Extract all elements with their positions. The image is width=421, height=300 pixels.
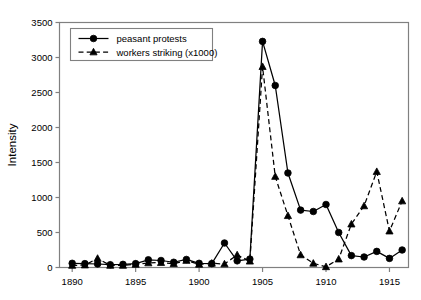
data-point-marker: [272, 82, 279, 89]
series-line: [72, 67, 402, 267]
data-point-marker: [310, 208, 317, 215]
data-point-marker: [335, 255, 342, 262]
data-point-marker: [234, 251, 241, 258]
y-axis-tick-label: 500: [37, 227, 53, 238]
series-2: [69, 63, 406, 270]
data-point-marker: [94, 261, 101, 268]
y-axis-tick-label: 2000: [31, 122, 52, 133]
x-axis-tick-label: 1890: [62, 276, 83, 287]
data-point-marker: [399, 247, 406, 254]
data-point-marker: [323, 201, 330, 208]
chart-container: 0500100015002000250030003500189018951900…: [0, 0, 421, 300]
y-axis-tick-label: 1500: [31, 157, 52, 168]
data-point-marker: [94, 255, 101, 262]
data-point-marker: [386, 227, 393, 234]
series-line: [72, 41, 402, 264]
legend-item-label: workers striking (x1000): [116, 47, 218, 58]
data-point-marker: [284, 212, 291, 219]
data-point-marker: [259, 38, 266, 45]
data-point-marker: [297, 207, 304, 214]
data-point-marker: [335, 229, 342, 236]
data-point-marker: [360, 202, 367, 209]
data-point-marker: [361, 254, 368, 261]
data-point-marker: [221, 260, 228, 267]
data-point-marker: [272, 173, 279, 180]
data-point-marker: [310, 260, 317, 267]
data-point-marker: [386, 255, 393, 262]
y-axis-tick-label: 3500: [31, 17, 52, 28]
line-chart: 0500100015002000250030003500189018951900…: [0, 0, 421, 300]
data-point-marker: [373, 248, 380, 255]
y-axis-tick-label: 3000: [31, 52, 52, 63]
data-point-marker: [297, 251, 304, 258]
x-axis-tick-label: 1895: [125, 276, 146, 287]
series-1: [69, 38, 406, 268]
legend-item-label: peasant protests: [117, 33, 187, 44]
data-point-marker: [285, 170, 292, 177]
data-point-marker: [259, 63, 266, 70]
legend: peasant protestsworkers striking (x1000): [71, 29, 218, 61]
y-axis-tick-label: 2500: [31, 87, 52, 98]
y-axis-tick-label: 0: [47, 262, 52, 273]
data-point-marker: [90, 35, 97, 42]
data-point-marker: [399, 197, 406, 204]
x-axis-tick-label: 1905: [252, 276, 273, 287]
y-axis-tick-label: 1000: [31, 192, 52, 203]
x-axis-tick-label: 1910: [315, 276, 336, 287]
data-point-marker: [348, 252, 355, 259]
data-point-marker: [234, 258, 241, 265]
x-axis-tick-label: 1915: [379, 276, 400, 287]
y-axis-title: Intensity: [6, 123, 18, 166]
data-point-marker: [221, 240, 228, 247]
x-axis-tick-label: 1900: [189, 276, 210, 287]
data-point-marker: [373, 168, 380, 175]
